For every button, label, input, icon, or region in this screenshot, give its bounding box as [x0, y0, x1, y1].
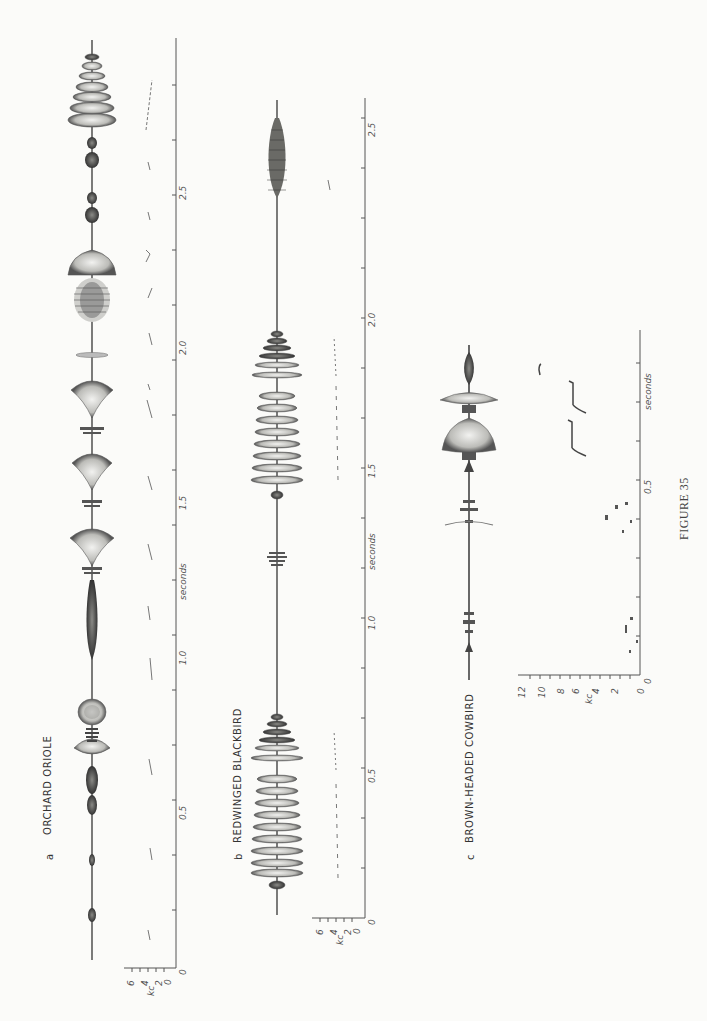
figure-graphics — [0, 0, 707, 1021]
panel-b-title: REDWINGED BLACKBIRD — [232, 708, 243, 843]
panel-c-sonagram — [539, 364, 638, 653]
panel-b-x-tick-0.5: 0.5 — [367, 769, 377, 783]
panel-b-x-tick-2.5: 2.5 — [367, 123, 377, 137]
panel-c-letter: c — [465, 854, 476, 860]
panel-c-y-tick-10: 10 — [537, 687, 547, 698]
panel-b-letter: b — [233, 853, 244, 860]
panel-c-y-tick-6: 6 — [571, 688, 581, 694]
panel-a-y-tick-0: 0 — [163, 979, 173, 985]
panel-c-title: BROWN-HEADED COWBIRD — [464, 694, 475, 843]
panel-c-y-tick-0: 0 — [636, 688, 646, 694]
panel-b-sonagram — [328, 180, 338, 878]
panel-c-y-tick-2: 2 — [610, 688, 620, 694]
panel-a-y-tick-6: 6 — [126, 980, 136, 986]
panel-b-x-axis-label: seconds — [367, 533, 377, 570]
panel-c-envelope — [440, 345, 498, 680]
panel-b-x-tick-1.5: 1.5 — [367, 464, 377, 478]
panel-a-x-tick-0.5: 0.5 — [178, 806, 188, 820]
panel-a-sonagram — [146, 80, 152, 940]
panel-a-title: ORCHARD ORIOLE — [42, 736, 53, 835]
panel-a-x-tick-1.0: 1.0 — [178, 651, 188, 665]
panel-b-x-tick-1.0: 1.0 — [367, 616, 377, 630]
panel-c-y-tick-8: 8 — [556, 688, 566, 694]
panel-c-x-tick-0: 0 — [643, 678, 653, 684]
panel-a-letter: a — [44, 853, 55, 860]
panel-a-x-tick-2.0: 2.0 — [178, 341, 188, 355]
panel-c-x-tick-0.5: 0.5 — [643, 480, 653, 494]
panel-a-axes — [124, 38, 176, 972]
figure-caption: FIGURE 35 — [677, 477, 692, 540]
panel-b-x-tick-2.0: 2.0 — [367, 313, 377, 327]
panel-b-y-tick-0: 0 — [352, 928, 362, 934]
panel-c-x-axis-label: seconds — [643, 373, 653, 410]
panel-b-y-axis-label: kc — [335, 935, 345, 945]
panel-c-y-axis-label: kc — [584, 694, 594, 704]
panel-c-y-tick-12: 12 — [517, 687, 527, 698]
panel-a-x-tick-2.5: 2.5 — [178, 186, 188, 200]
panel-a-x-tick-0: 0 — [178, 969, 188, 975]
panel-a-x-axis-label: seconds — [178, 563, 188, 600]
panel-b-envelope — [251, 100, 303, 915]
panel-b-axes — [312, 98, 365, 922]
panel-a-y-axis-label: kc — [146, 986, 156, 996]
panel-b-x-tick-0: 0 — [367, 919, 377, 925]
panel-a-envelope — [68, 40, 116, 960]
panel-b-y-tick-6: 6 — [315, 929, 325, 935]
panel-c-axes — [518, 330, 640, 679]
panel-a-x-tick-1.5: 1.5 — [178, 496, 188, 510]
